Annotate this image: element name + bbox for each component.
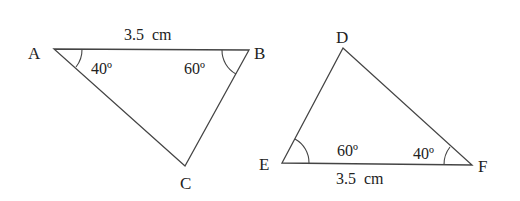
angle-label-e: 60º [337,142,358,159]
angle-label-b: 60º [184,60,205,77]
angle-label-f: 40º [413,145,434,162]
triangle-abc-outline [54,49,249,166]
triangle-abc: A B C 3.5 cm 40º 60º [28,26,265,193]
vertex-label-f: F [478,157,487,176]
angle-arc-b [222,50,236,74]
triangle-def: D E F 60º 40º 3.5 cm [259,28,487,187]
side-length-ef: 3.5 cm [336,170,384,187]
triangle-def-outline [282,48,472,165]
diagram-canvas: A B C 3.5 cm 40º 60º D E F 60º 40º 3.5 c… [0,0,520,201]
angle-arc-a [76,49,82,67]
angle-arc-f [444,147,450,165]
triangles-svg: A B C 3.5 cm 40º 60º D E F 60º 40º 3.5 c… [0,0,520,201]
vertex-label-e: E [259,155,269,174]
vertex-label-b: B [254,44,265,63]
vertex-label-d: D [336,28,348,47]
vertex-label-c: C [180,174,191,193]
side-length-ab: 3.5 cm [124,26,172,43]
angle-label-a: 40º [91,60,112,77]
angle-arc-e [295,139,309,163]
vertex-label-a: A [28,44,41,63]
